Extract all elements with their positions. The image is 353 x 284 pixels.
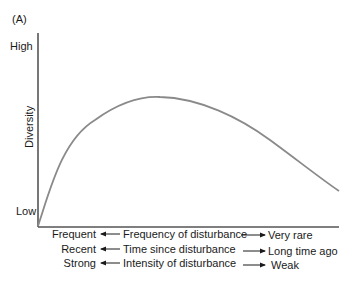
diagram-canvas: [0, 0, 353, 284]
x-center-label-frequency: Frequency of disturbance: [123, 228, 247, 240]
x-right-label-frequency: Very rare: [268, 229, 313, 241]
x-center-label-time: Time since disturbance: [123, 243, 236, 255]
x-right-label-time: Long time ago: [268, 245, 338, 257]
x-right-label-intensity: Weak: [271, 259, 299, 271]
x-center-label-intensity: Intensity of disturbance: [123, 257, 236, 269]
diversity-curve: [38, 97, 339, 226]
x-left-label-intensity: Strong: [64, 257, 96, 269]
x-left-label-time: Recent: [61, 243, 96, 255]
x-left-label-frequency: Frequent: [52, 228, 96, 240]
